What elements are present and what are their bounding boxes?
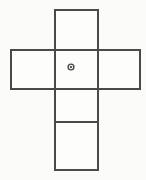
center-dot-core <box>70 66 72 68</box>
center-point-marker <box>67 63 74 70</box>
net-face-center <box>55 50 98 89</box>
net-face-right <box>98 50 140 89</box>
cube-net-diagram <box>0 0 146 180</box>
net-face-left <box>11 50 55 89</box>
net-face-top <box>55 10 98 50</box>
net-face-lower <box>55 89 98 122</box>
diagram-canvas <box>0 0 146 180</box>
net-face-bottom <box>55 122 98 170</box>
